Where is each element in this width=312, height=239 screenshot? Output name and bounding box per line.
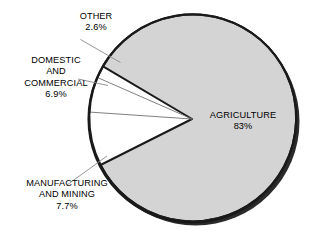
slice-label-manufacturing-and-mining: MANUFACTURING AND MINING 7.7% [0,178,134,212]
slice-label-agriculture-value: 83% [196,121,290,132]
slice-label-domestic-line2: AND [2,66,110,77]
slice-label-agriculture: AGRICULTURE 83% [196,110,290,133]
slice-label-domestic-line1: DOMESTIC [2,55,110,66]
pie-chart-figure: OTHER 2.6% DOMESTIC AND COMMERCIAL 6.9% … [0,0,312,239]
slice-label-domestic-and-commercial: DOMESTIC AND COMMERCIAL 6.9% [2,55,110,101]
slice-label-other: OTHER 2.6% [48,11,144,34]
slice-label-domestic-value: 6.9% [2,89,110,100]
slice-label-other-name: OTHER [48,11,144,22]
slice-label-manufacturing-line1: MANUFACTURING [0,178,134,189]
slice-label-manufacturing-value: 7.7% [0,201,134,212]
slice-label-other-value: 2.6% [48,22,144,33]
slice-label-agriculture-name: AGRICULTURE [196,110,290,121]
slice-label-domestic-line3: COMMERCIAL [2,78,110,89]
slice-label-manufacturing-line2: AND MINING [0,189,134,200]
